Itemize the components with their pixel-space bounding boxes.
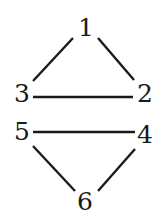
node-3: 3 bbox=[14, 81, 30, 106]
edge-1-3 bbox=[33, 38, 73, 81]
node-1: 1 bbox=[78, 15, 94, 40]
edge-5-6 bbox=[33, 146, 75, 191]
node-6: 6 bbox=[77, 189, 93, 214]
edge-4-6 bbox=[98, 149, 135, 191]
node-2: 2 bbox=[137, 81, 153, 106]
node-4: 4 bbox=[137, 122, 153, 147]
graph-diagram: 1 2 3 4 5 6 bbox=[0, 0, 165, 223]
edge-1-2 bbox=[98, 38, 134, 80]
node-5: 5 bbox=[14, 119, 30, 144]
